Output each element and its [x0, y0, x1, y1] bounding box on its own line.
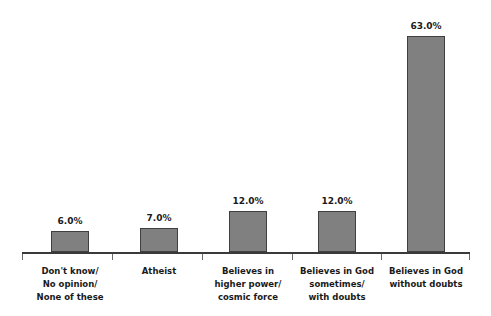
x-axis-line — [22, 252, 470, 254]
category-label-dont-know: Don't know/ No opinion/ None of these — [20, 265, 120, 304]
bar-god-without-doubts — [407, 36, 445, 252]
x-axis-tick-1 — [112, 254, 113, 260]
bar-value-god-sometimes: 12.0% — [307, 196, 367, 206]
x-axis-tick-5 — [469, 254, 470, 260]
bar-atheist — [140, 228, 178, 252]
bar-value-atheist: 7.0% — [129, 213, 189, 223]
category-label-god-sometimes: Believes in God sometimes/ with doubts — [287, 265, 387, 304]
category-label-god-without-doubts: Believes in God without doubts — [376, 265, 476, 291]
category-label-atheist: Atheist — [109, 265, 209, 278]
bar-value-higher-power: 12.0% — [218, 196, 278, 206]
x-axis-tick-3 — [292, 254, 293, 260]
plot-area: 6.0% 7.0% 12.0% 12.0% 63.0% Don't know/ … — [0, 0, 491, 316]
bar-value-dont-know: 6.0% — [40, 216, 100, 226]
category-label-higher-power: Believes in higher power/ cosmic force — [198, 265, 298, 304]
bar-value-god-without-doubts: 63.0% — [396, 21, 456, 31]
bar-higher-power — [229, 211, 267, 252]
x-axis-tick-2 — [202, 254, 203, 260]
bar-chart: 6.0% 7.0% 12.0% 12.0% 63.0% Don't know/ … — [0, 0, 491, 316]
bar-dont-know — [51, 231, 89, 252]
x-axis-tick-0 — [22, 254, 23, 260]
bar-god-sometimes — [318, 211, 356, 252]
x-axis-tick-4 — [381, 254, 382, 260]
